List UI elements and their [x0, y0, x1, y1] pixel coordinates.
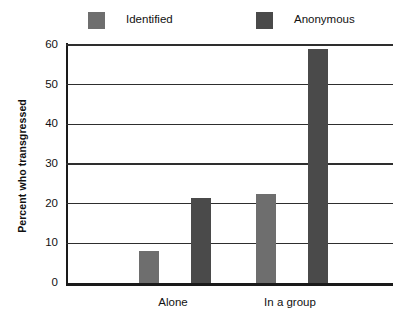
x-axis-category-label: Alone [158, 297, 187, 309]
chart-legend: Identified Anonymous [0, 0, 400, 40]
bar-chart: Identified Anonymous Percent who transgr… [0, 0, 400, 322]
y-axis-title: Percent who transgressed [16, 66, 28, 266]
gridline [66, 124, 393, 126]
gridline [66, 44, 393, 46]
gridline [66, 84, 393, 86]
y-axis-tick-label: 40 [45, 119, 58, 131]
x-axis-category-label: In a group [264, 297, 316, 309]
legend-item-anonymous: Anonymous [256, 10, 355, 30]
gridline [66, 163, 393, 165]
gridline [66, 243, 393, 245]
plot-area: 0102030405060 AloneIn a group [66, 45, 393, 283]
x-axis-line [66, 283, 393, 286]
legend-label-anonymous: Anonymous [294, 14, 355, 26]
bar-identified-alone [139, 251, 159, 283]
y-axis-tick-label: 60 [45, 39, 58, 51]
y-axis-tick-label: 50 [45, 79, 58, 91]
y-axis-tick-label: 20 [45, 198, 58, 210]
legend-label-identified: Identified [126, 14, 173, 26]
y-axis-tick-label: 10 [45, 238, 58, 250]
legend-swatch-anonymous [256, 12, 273, 29]
bar-identified-in-a-group [256, 194, 276, 283]
gridline [66, 203, 393, 205]
y-axis-tick-label: 0 [52, 277, 58, 289]
y-axis-tick-label: 30 [45, 158, 58, 170]
bar-anonymous-alone [191, 198, 211, 283]
legend-swatch-identified [88, 12, 105, 29]
bar-anonymous-in-a-group [308, 49, 328, 283]
legend-item-identified: Identified [88, 10, 173, 30]
